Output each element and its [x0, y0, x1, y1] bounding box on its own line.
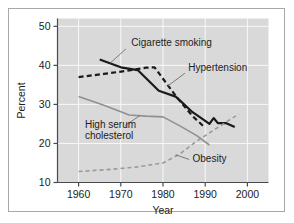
annotation-label-hypertension: Hypertension: [188, 62, 247, 73]
annotation-label-high-serum-cholesterol: cholesterol: [85, 130, 133, 141]
y-axis-tick-label: 40: [39, 59, 51, 71]
annotation-label-high-serum-cholesterol: High serum: [85, 119, 136, 130]
y-axis-tick-label: 10: [39, 176, 51, 188]
x-axis-tick-label: 1990: [194, 188, 218, 200]
y-axis-tick-label: 50: [39, 20, 51, 32]
x-axis-title: Year: [152, 204, 174, 216]
y-axis-title: Percent: [15, 82, 27, 118]
y-axis-tick-label: 20: [39, 137, 51, 149]
x-axis-tick-label: 1970: [109, 188, 133, 200]
x-axis-tick-label: 2000: [236, 188, 260, 200]
annotation-label-cigarette-smoking: Cigarette smoking: [131, 37, 212, 48]
x-axis-tick-label: 1960: [67, 188, 91, 200]
annotation-label-obesity: Obesity: [193, 153, 227, 164]
line-chart: Cigarette smokingHypertensionHigh serumc…: [0, 0, 294, 223]
plot-area: Cigarette smokingHypertensionHigh serumc…: [15, 19, 269, 216]
figure-container: Cigarette smokingHypertensionHigh serumc…: [0, 0, 294, 223]
y-axis-tick-label: 30: [39, 98, 51, 110]
x-axis-tick-label: 1980: [151, 188, 175, 200]
